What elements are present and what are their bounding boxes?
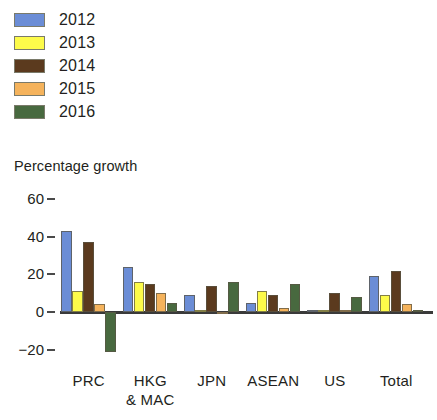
bar	[123, 267, 134, 312]
bar	[206, 286, 217, 312]
bar	[257, 291, 268, 312]
bar	[134, 282, 145, 312]
y-axis-tick-mark	[47, 236, 55, 238]
bar	[340, 310, 351, 312]
y-axis-tick-label: 20	[8, 265, 44, 282]
bar	[105, 312, 116, 352]
bar	[167, 303, 178, 312]
bar	[351, 297, 362, 312]
bar	[380, 295, 391, 312]
bar	[94, 304, 105, 312]
bar	[413, 310, 424, 312]
bar	[268, 295, 279, 312]
bar	[279, 308, 290, 312]
bar	[369, 276, 380, 312]
bar	[329, 293, 340, 312]
bar	[402, 304, 413, 312]
y-axis-tick-label: 40	[8, 228, 44, 245]
x-axis-tick-label-line2: & MAC	[105, 391, 195, 408]
bar	[307, 310, 318, 312]
bar	[72, 291, 83, 312]
x-axis-tick-label: Total	[351, 372, 437, 389]
bar	[391, 271, 402, 312]
bar	[290, 284, 301, 312]
y-axis-tick-mark	[47, 198, 55, 200]
bar	[145, 284, 156, 312]
y-axis-tick-label: −20	[8, 341, 44, 358]
y-axis-tick-mark	[47, 273, 55, 275]
y-axis-tick-mark	[47, 349, 55, 351]
bar	[184, 295, 195, 312]
bar	[228, 282, 239, 312]
y-axis-tick-mark	[47, 311, 55, 313]
bar	[195, 310, 206, 312]
y-axis-tick-label: 0	[8, 303, 44, 320]
bar	[217, 312, 228, 314]
bar	[246, 303, 257, 312]
bar	[318, 310, 329, 312]
bar	[61, 231, 72, 312]
bar	[156, 293, 167, 312]
bar	[83, 242, 94, 312]
y-axis-tick-label: 60	[8, 190, 44, 207]
